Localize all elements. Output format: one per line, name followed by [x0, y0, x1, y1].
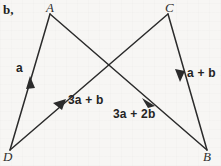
part-label: b, [3, 3, 13, 16]
vector-label-a-b: a + b [187, 67, 216, 79]
arrowhead-d-a [26, 76, 35, 89]
vector-label-3a-b: 3a + b [68, 94, 104, 106]
vertex-label-c: C [165, 1, 174, 14]
diagram-canvas [0, 0, 221, 166]
vertex-label-d: D [3, 150, 12, 163]
arrowhead-c-b [175, 69, 185, 82]
vector-label-a: a [16, 62, 23, 74]
segment-c-b [168, 14, 207, 150]
segment-a-b [50, 14, 207, 150]
vertex-label-a: A [46, 1, 54, 14]
vector-label-3a-2b: 3a + 2b [113, 108, 155, 120]
vector-diagram-figure: b, A C D B a 3a + b 3a + 2b a + b [0, 0, 221, 166]
segment-d-c [10, 14, 168, 150]
vertex-label-b: B [203, 150, 211, 163]
